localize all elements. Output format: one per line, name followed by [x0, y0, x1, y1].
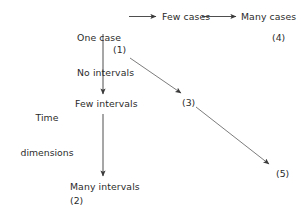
ref-label-3: (3) [182, 97, 195, 109]
ref-label-4: (4) [272, 32, 285, 44]
node-one-case-line1: One case [77, 32, 134, 44]
axis-label-time-dimensions: Time dimensions [16, 89, 78, 182]
ref-label-1: (1) [113, 44, 126, 56]
arrow-one-case-to-ref-3 [130, 58, 181, 93]
node-one-case-line2: No intervals [77, 67, 134, 79]
ref-label-2: (2) [70, 195, 83, 207]
diagram-canvas: Time dimensions One case No intervals Fe… [0, 0, 302, 211]
axis-label-line2: dimensions [16, 147, 78, 159]
node-many-intervals: Many intervals [70, 181, 140, 193]
node-many-cases: Many cases [241, 11, 296, 23]
arrow-ref-3-to-ref-5 [196, 107, 269, 164]
node-few-cases: Few cases [162, 11, 210, 23]
axis-label-line1: Time [16, 112, 78, 124]
ref-label-5: (5) [276, 168, 289, 180]
node-few-intervals: Few intervals [75, 98, 138, 110]
